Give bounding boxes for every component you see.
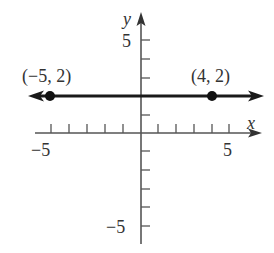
point-left-label: (−5, 2) <box>22 66 71 87</box>
y-tick-label-5: 5 <box>122 31 131 51</box>
point-right <box>207 91 217 101</box>
point-left <box>45 91 55 101</box>
x-axis <box>35 124 262 138</box>
coordinate-plane: (−5, 2) (4, 2) x y −5 5 5 −5 <box>0 0 274 253</box>
x-tick-label-5: 5 <box>223 140 232 160</box>
y-axis <box>137 12 151 244</box>
y-axis-label: y <box>121 9 131 29</box>
x-tick-label-neg5: −5 <box>31 140 50 160</box>
point-right-label: (4, 2) <box>191 66 230 87</box>
line-y-equals-2 <box>28 91 264 102</box>
x-ticks <box>51 124 229 133</box>
x-axis-label: x <box>246 113 255 133</box>
y-tick-label-neg5: −5 <box>106 217 125 237</box>
